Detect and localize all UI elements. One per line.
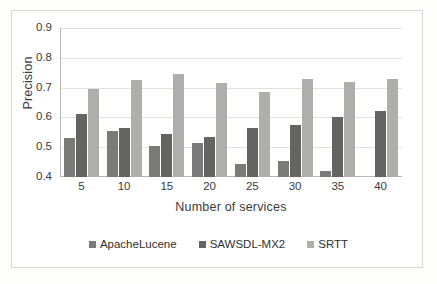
x-axis-tick-label: 15 [146, 180, 189, 192]
bar-group [359, 28, 402, 177]
bar-group [274, 28, 317, 177]
x-axis-tick-labels: 510152025303540 [60, 180, 402, 192]
bar-group [103, 28, 146, 177]
legend-label: SRTT [318, 238, 348, 250]
bar-groups [60, 28, 402, 177]
x-axis-tick-label: 30 [274, 180, 317, 192]
bar[interactable] [88, 89, 99, 177]
chart-legend: ApacheLuceneSAWSDL-MX2SRTT [0, 238, 437, 250]
bar[interactable] [76, 114, 87, 177]
x-axis-tick-label: 40 [359, 180, 402, 192]
bar[interactable] [131, 80, 142, 177]
y-axis-tick-label: 0.8 [26, 52, 52, 64]
y-axis-tick-label: 0.6 [26, 112, 52, 124]
y-axis-tick-label: 0.9 [26, 22, 52, 34]
y-axis-tick-label: 0.7 [26, 82, 52, 94]
bar-group [60, 28, 103, 177]
bar-group [146, 28, 189, 177]
bar[interactable] [216, 83, 227, 177]
bar[interactable] [235, 164, 246, 177]
x-axis-tick-label: 20 [188, 180, 231, 192]
plot-area [60, 28, 402, 177]
bar[interactable] [332, 117, 343, 177]
x-axis-tick-label: 35 [317, 180, 360, 192]
bar[interactable] [259, 92, 270, 177]
bar[interactable] [119, 128, 130, 177]
bar-group [231, 28, 274, 177]
bar[interactable] [204, 137, 215, 177]
bar-group [317, 28, 360, 177]
bar[interactable] [192, 143, 203, 177]
legend-label: ApacheLucene [100, 238, 177, 250]
bar[interactable] [64, 138, 75, 177]
bar[interactable] [149, 146, 160, 177]
bar[interactable] [107, 131, 118, 177]
bar[interactable] [278, 161, 289, 177]
legend-swatch-icon [307, 241, 314, 248]
bar[interactable] [375, 111, 386, 177]
bar[interactable] [173, 74, 184, 177]
legend-label: SAWSDL-MX2 [210, 238, 286, 250]
bar[interactable] [290, 125, 301, 177]
x-axis-title: Number of services [60, 200, 402, 214]
bar[interactable] [247, 128, 258, 177]
legend-item[interactable]: ApacheLucene [89, 238, 177, 250]
legend-swatch-icon [89, 241, 96, 248]
x-axis-tick-label: 10 [103, 180, 146, 192]
legend-swatch-icon [199, 241, 206, 248]
bar-group [188, 28, 231, 177]
bar[interactable] [344, 82, 355, 177]
legend-item[interactable]: SAWSDL-MX2 [199, 238, 286, 250]
x-axis-tick-label: 5 [60, 180, 103, 192]
y-axis-tick-label: 0.5 [26, 141, 52, 153]
bar[interactable] [302, 79, 313, 177]
bar[interactable] [320, 171, 331, 177]
bar[interactable] [161, 134, 172, 177]
chart-figure: Precision 0.90.80.70.60.50.4 51015202530… [0, 0, 437, 284]
legend-item[interactable]: SRTT [307, 238, 348, 250]
x-axis-tick-label: 25 [231, 180, 274, 192]
y-axis-tick-label: 0.4 [26, 171, 52, 183]
bar[interactable] [387, 79, 398, 177]
